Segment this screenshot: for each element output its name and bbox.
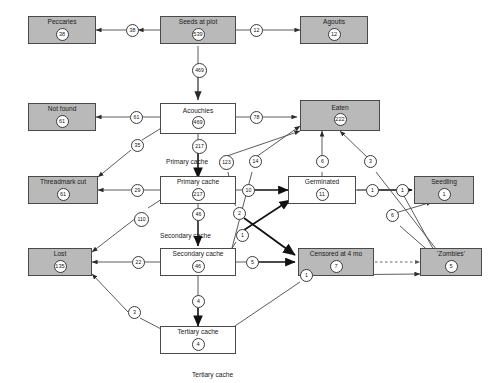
- node-acouchies[interactable]: Acouchies 469: [160, 103, 236, 134]
- node-eaten[interactable]: Eaten 222: [300, 100, 380, 131]
- node-zombies-label: 'Zombies': [437, 251, 465, 258]
- node-primary-cache[interactable]: Primary cache 217: [160, 176, 236, 204]
- node-tertiary-cache-label: Tertiary cache: [177, 329, 218, 336]
- node-secondary-cache-value: 46: [192, 260, 205, 273]
- node-germinated-label: Germinated: [305, 179, 339, 186]
- node-zombies[interactable]: 'Zombies' 5: [420, 248, 482, 276]
- edge-label-germinated-seedling: 1: [366, 184, 379, 197]
- edge-label-zombies-seedling: 6: [386, 209, 399, 222]
- node-seedling-value: 1: [438, 188, 451, 201]
- edge-label-seeds-peccaries: 38: [126, 24, 139, 37]
- node-germinated-value: 11: [316, 188, 329, 201]
- node-lost-value: 135: [54, 260, 67, 273]
- node-not-found-label: Not found: [48, 106, 77, 113]
- node-zombies-value: 5: [445, 260, 458, 273]
- edge-label-secondary-censored: 5: [246, 256, 259, 269]
- diagram-canvas: Peccaries 38 Seeds at plot 539 Agoutis 1…: [0, 0, 501, 383]
- edge-label-tertiary-zombies: 1: [300, 269, 313, 282]
- edge-label-secondary-lost: 22: [132, 256, 145, 269]
- stage-label-secondary-cache: Secondary cache: [160, 232, 211, 239]
- edge-label-primary-threadmark: 29: [131, 184, 144, 197]
- node-primary-cache-value: 217: [192, 188, 205, 201]
- node-agoutis-value: 12: [328, 28, 341, 41]
- node-acouchies-label: Acouchies: [183, 108, 213, 115]
- stage-label-primary-cache: Primary cache: [166, 158, 208, 165]
- edge-label-zombies-eaten: 3: [364, 155, 377, 168]
- node-seeds-at-plot-value: 539: [192, 28, 205, 41]
- edge-label-acouchies-primary: 217: [192, 139, 207, 154]
- edge-label-seeds-acouchies: 469: [192, 63, 207, 78]
- node-threadmark-cut-value: 61: [57, 188, 70, 201]
- edge-label-acouchies-notfound: 61: [130, 111, 143, 124]
- node-seeds-at-plot[interactable]: Seeds at plot 539: [160, 16, 236, 44]
- edge-label-secondary-tertiary: 4: [192, 295, 205, 308]
- node-not-found[interactable]: Not found 61: [28, 103, 96, 131]
- node-threadmark-cut-label: Threadmark cut: [40, 179, 86, 186]
- edge-label-primary-germinated: 10: [242, 184, 255, 197]
- node-tertiary-cache[interactable]: Tertiary cache 4: [160, 326, 236, 354]
- node-lost-label: Lost: [54, 251, 66, 258]
- node-secondary-cache[interactable]: Secondary cache 46: [160, 248, 236, 276]
- node-peccaries-value: 38: [56, 28, 69, 41]
- node-secondary-cache-label: Secondary cache: [173, 251, 224, 258]
- node-agoutis[interactable]: Agoutis 12: [300, 16, 368, 44]
- node-agoutis-label: Agoutis: [323, 19, 345, 26]
- edge-label-secondary-eaten: 14: [249, 155, 262, 168]
- node-peccaries-label: Peccaries: [48, 19, 77, 26]
- node-seeds-at-plot-label: Seeds at plot: [179, 19, 218, 26]
- edge-label-germinated-eaten: 6: [316, 155, 329, 168]
- node-peccaries[interactable]: Peccaries 38: [28, 16, 96, 44]
- edge-label-acouchies-eaten: 78: [250, 111, 263, 124]
- node-eaten-label: Eaten: [331, 105, 348, 112]
- edge-label-tertiary-lost: 3: [128, 306, 141, 319]
- node-acouchies-value: 469: [192, 116, 205, 129]
- edge-label-seeds-agoutis: 12: [250, 24, 263, 37]
- edge-label-secondary-germinated: 1: [236, 229, 249, 242]
- node-not-found-value: 61: [56, 115, 69, 128]
- edge-label-acouchies-threadmark: 35: [131, 139, 144, 152]
- edge-label-primary-censored: 2: [233, 207, 246, 220]
- node-censored-at-4-mo-value: 7: [330, 260, 343, 273]
- edge-label-primary-eaten: 123: [219, 155, 234, 170]
- node-threadmark-cut[interactable]: Threadmark cut 61: [28, 176, 98, 204]
- node-lost[interactable]: Lost 135: [28, 248, 92, 276]
- node-eaten-value: 222: [334, 113, 347, 126]
- edge-label-primary-secondary: 46: [192, 208, 205, 221]
- node-seedling[interactable]: Seedling 1: [414, 176, 474, 204]
- node-germinated[interactable]: Germinated 11: [288, 176, 356, 204]
- edge-label-primary-lost: 110: [134, 212, 149, 227]
- bottom-caption: Tertiary cache: [192, 371, 233, 378]
- node-seedling-label: Seedling: [431, 179, 457, 186]
- edge-label-zombies-germinated: 1: [396, 184, 409, 197]
- node-primary-cache-label: Primary cache: [177, 179, 219, 186]
- node-tertiary-cache-value: 4: [192, 338, 205, 351]
- node-censored-at-4-mo-label: Censored at 4 mo: [310, 251, 362, 258]
